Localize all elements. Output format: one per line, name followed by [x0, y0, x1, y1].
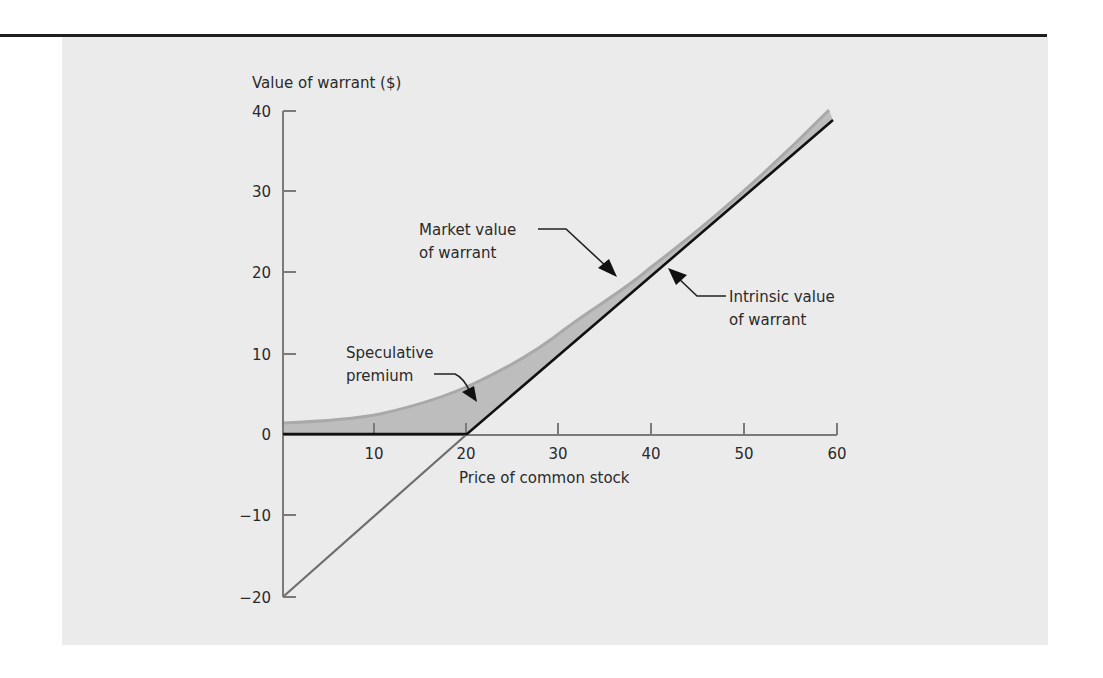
svg-text:Speculative: Speculative	[346, 344, 434, 362]
x-axis-title: Price of common stock	[459, 469, 630, 487]
annotation-intrinsic-value: Intrinsic value of warrant	[668, 268, 835, 329]
x-tick-40: 40	[641, 445, 660, 463]
intrinsic-value-line	[283, 120, 833, 434]
svg-text:of warrant: of warrant	[729, 311, 806, 329]
svg-text:of warrant: of warrant	[419, 244, 496, 262]
y-tick-neg10: −10	[239, 507, 271, 525]
x-tick-60: 60	[827, 445, 846, 463]
x-tick-10: 10	[364, 445, 383, 463]
y-tick-labels: 40 30 20 10 0 −10 −20	[239, 103, 271, 607]
y-ticks	[283, 111, 296, 597]
speculative-premium-area	[283, 110, 833, 434]
svg-text:Market value: Market value	[419, 221, 516, 239]
y-tick-20: 20	[252, 264, 271, 282]
y-axis-title: Value of warrant ($)	[252, 74, 401, 92]
chart: 40 30 20 10 0 −10 −20 10 20 30 40 50 60 …	[0, 0, 1103, 678]
arrow-icon	[668, 268, 687, 285]
svg-text:Intrinsic value: Intrinsic value	[729, 288, 835, 306]
svg-text:premium: premium	[346, 367, 414, 385]
x-tick-20: 20	[456, 445, 475, 463]
x-tick-50: 50	[734, 445, 753, 463]
x-tick-30: 30	[548, 445, 567, 463]
y-tick-neg20: −20	[239, 589, 271, 607]
y-tick-30: 30	[252, 183, 271, 201]
y-tick-40: 40	[252, 103, 271, 121]
y-tick-10: 10	[252, 346, 271, 364]
y-tick-0: 0	[261, 426, 271, 444]
annotation-market-value: Market value of warrant	[419, 221, 617, 277]
